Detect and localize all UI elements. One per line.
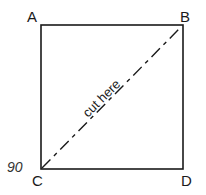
- page-number: 90: [7, 159, 23, 175]
- vertex-label-a: A: [27, 8, 37, 25]
- vertex-label-d: D: [181, 172, 192, 189]
- square-cut-diagram: A B C D 90 cut here: [0, 0, 206, 195]
- cut-here-label: cut here: [80, 76, 124, 120]
- vertex-label-c: C: [32, 172, 43, 189]
- vertex-label-b: B: [180, 8, 190, 25]
